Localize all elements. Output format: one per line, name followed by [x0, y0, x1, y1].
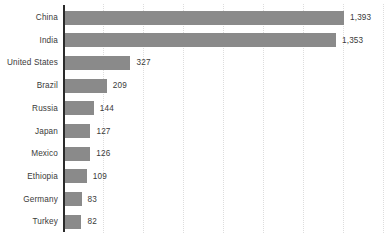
bar-value-label: 209	[113, 74, 127, 97]
category-label: Germany	[0, 188, 58, 211]
plot-area: China1,393India1,353United States327Braz…	[0, 0, 385, 239]
bar-value-label: 144	[100, 97, 114, 120]
bar-row: United States327	[0, 51, 385, 74]
bar[interactable]	[65, 215, 81, 229]
bar-row: China1,393	[0, 6, 385, 29]
bar-row: Japan127	[0, 120, 385, 143]
category-label: India	[0, 29, 58, 52]
bar[interactable]	[65, 101, 94, 115]
bar-chart: China1,393India1,353United States327Braz…	[0, 0, 385, 239]
bar-value-label: 1,393	[350, 6, 371, 29]
bar[interactable]	[65, 11, 344, 25]
bar-value-label: 327	[136, 51, 150, 74]
category-label: China	[0, 6, 58, 29]
category-label: Brazil	[0, 74, 58, 97]
bar-value-label: 127	[96, 120, 110, 143]
category-label: Ethiopia	[0, 165, 58, 188]
bar-row: India1,353	[0, 29, 385, 52]
bar[interactable]	[65, 124, 90, 138]
category-label: Turkey	[0, 210, 58, 233]
bar-rows: China1,393India1,353United States327Braz…	[0, 0, 385, 239]
bar-row: Brazil209	[0, 74, 385, 97]
bar[interactable]	[65, 147, 90, 161]
bar-row: Ethiopia109	[0, 165, 385, 188]
bar-value-label: 83	[88, 188, 97, 211]
category-label: United States	[0, 51, 58, 74]
bar-row: Turkey82	[0, 210, 385, 233]
bar[interactable]	[65, 56, 130, 70]
bar-value-label: 126	[96, 142, 110, 165]
category-label: Japan	[0, 120, 58, 143]
bar-value-label: 82	[87, 210, 96, 233]
bar[interactable]	[65, 192, 82, 206]
bar[interactable]	[65, 169, 87, 183]
bar-row: Germany83	[0, 188, 385, 211]
bar-value-label: 1,353	[342, 29, 363, 52]
bar-row: Russia144	[0, 97, 385, 120]
bar[interactable]	[65, 79, 107, 93]
bar-value-label: 109	[93, 165, 107, 188]
bar[interactable]	[65, 33, 336, 47]
category-label: Mexico	[0, 142, 58, 165]
category-label: Russia	[0, 97, 58, 120]
bar-row: Mexico126	[0, 142, 385, 165]
